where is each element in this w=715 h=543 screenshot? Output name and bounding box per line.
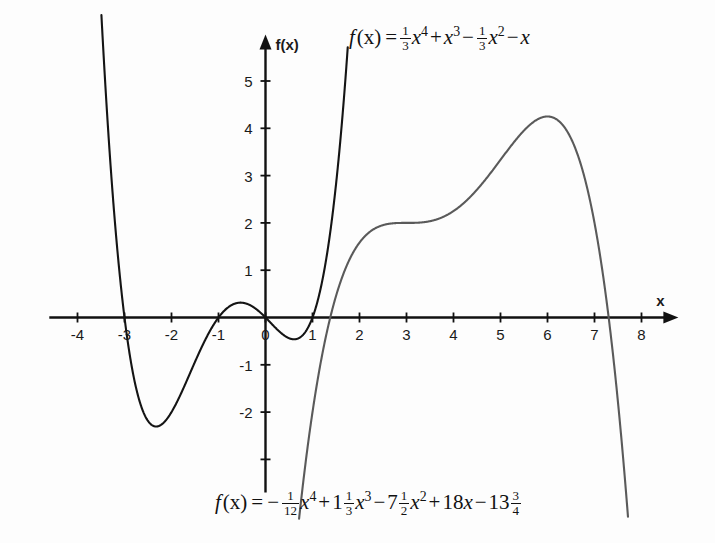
bottom-formula-op5: − xyxy=(473,490,489,514)
bottom-formula-term3-whole: 7 xyxy=(387,490,398,514)
y-tick-label: 2 xyxy=(244,215,252,232)
x-tick-label: 2 xyxy=(355,326,363,343)
bottom-formula-term4-coef: 18 xyxy=(442,490,463,514)
bottom-formula-frac1: 112 xyxy=(282,489,299,517)
top-formula-annotation: f(x)=13x4+x3−13x2−x xyxy=(349,24,530,52)
bottom-formula-annotation: f(x)=−112x4+113x3−712x2+18x−1334 xyxy=(215,489,522,517)
y-axis-arrow xyxy=(260,34,272,49)
frac-den: 12 xyxy=(282,503,299,518)
bottom-formula-frac2: 13 xyxy=(344,489,355,517)
x-tick-label: 3 xyxy=(402,326,410,343)
top-formula-frac3: 13 xyxy=(477,24,488,52)
y-tick-label: -2 xyxy=(239,404,252,421)
top-formula-frac1: 13 xyxy=(400,24,411,52)
x-tick-label: 5 xyxy=(496,326,504,343)
top-formula-term3-pow: 2 xyxy=(498,24,505,39)
top-formula-equals: = xyxy=(383,25,399,49)
frac-den: 3 xyxy=(400,38,411,53)
x-tick-label: 7 xyxy=(590,326,598,343)
curve-quartic-black xyxy=(101,15,347,426)
frac-num: 1 xyxy=(399,489,410,503)
y-tick-label: 5 xyxy=(244,73,252,90)
frac-den: 2 xyxy=(399,503,410,518)
bottom-formula-frac3: 12 xyxy=(399,489,410,517)
top-formula-op4: − xyxy=(505,25,521,49)
bottom-formula-op3: − xyxy=(371,490,387,514)
frac-num: 1 xyxy=(477,24,488,38)
frac-den: 3 xyxy=(477,38,488,53)
top-formula-fname: f xyxy=(349,25,355,49)
frac-num: 3 xyxy=(511,489,522,503)
bottom-formula-term3-pow: 2 xyxy=(420,489,427,504)
y-tick-label: 1 xyxy=(244,262,252,279)
y-axis-title: f(x) xyxy=(276,36,299,53)
top-formula-op3: − xyxy=(460,25,476,49)
y-tick-label: -1 xyxy=(239,357,252,374)
top-formula-op2: + xyxy=(428,25,444,49)
frac-num: 1 xyxy=(282,489,299,503)
bottom-formula-term1-var: x xyxy=(300,490,309,514)
y-tick-label: 3 xyxy=(244,168,252,185)
bottom-formula-term3-var: x xyxy=(410,490,419,514)
x-tick-label: -1 xyxy=(212,326,225,343)
function-plot: -4-3-2-1012345678-2-112345xf(x) xyxy=(0,0,715,543)
top-formula-term2-var: x xyxy=(444,25,453,49)
top-formula-term4-var: x xyxy=(521,25,530,49)
bottom-formula-frac5: 34 xyxy=(511,489,522,517)
x-axis-title: x xyxy=(656,292,665,309)
bottom-formula-term2-whole: 1 xyxy=(332,490,343,514)
x-tick-label: 4 xyxy=(449,326,457,343)
top-formula-arg: (x) xyxy=(355,25,384,49)
bottom-formula-fname: f xyxy=(215,490,221,514)
top-formula-term3-var: x xyxy=(488,25,497,49)
bottom-formula-sign1: − xyxy=(265,490,281,514)
top-formula-term1-pow: 4 xyxy=(421,24,428,39)
x-axis-arrow xyxy=(663,312,678,324)
y-tick-label: 4 xyxy=(244,120,252,137)
bottom-formula-term5-whole: 13 xyxy=(489,490,510,514)
frac-den: 4 xyxy=(511,503,522,518)
bottom-formula-term4-var: x xyxy=(463,490,472,514)
x-tick-label: -3 xyxy=(118,326,131,343)
bottom-formula-op4: + xyxy=(427,490,443,514)
bottom-formula-equals: = xyxy=(249,490,265,514)
frac-num: 1 xyxy=(344,489,355,503)
x-tick-label: 6 xyxy=(543,326,551,343)
x-tick-label: 1 xyxy=(308,326,316,343)
x-tick-label: 8 xyxy=(637,326,645,343)
frac-num: 1 xyxy=(400,24,411,38)
x-tick-label: 0 xyxy=(261,326,269,343)
chart-canvas: -4-3-2-1012345678-2-112345xf(x) f(x)=13x… xyxy=(0,0,715,543)
top-formula-term1-var: x xyxy=(412,25,421,49)
bottom-formula-term2-var: x xyxy=(355,490,364,514)
x-tick-label: -2 xyxy=(165,326,178,343)
bottom-formula-arg: (x) xyxy=(221,490,250,514)
frac-den: 3 xyxy=(344,503,355,518)
bottom-formula-op2: + xyxy=(316,490,332,514)
x-tick-label: -4 xyxy=(71,326,84,343)
